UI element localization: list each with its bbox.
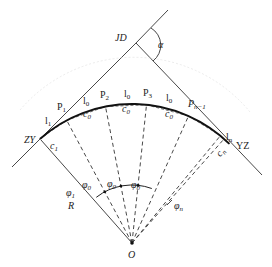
curve-layout-diagram: JD α ZY YZ O R P1 P2 P3 Pn−1 l1 l0 l0 l0…	[0, 0, 272, 267]
radial-dashed-line	[132, 136, 220, 243]
label-phi1: φ1	[66, 187, 75, 200]
angle-arc-point	[120, 185, 123, 188]
label-cn: cn	[213, 145, 228, 160]
radial-dashed-line	[132, 139, 224, 243]
label-phi0-b: φ0	[107, 178, 117, 191]
label-l0-b: l0	[124, 88, 131, 101]
label-p1: P1	[57, 101, 67, 114]
label-phin: φn	[174, 200, 184, 213]
radius-line	[41, 140, 132, 243]
label-l0-c: l0	[166, 92, 173, 105]
label-jd: JD	[115, 32, 127, 43]
label-r: R	[67, 200, 74, 211]
radial-dashed-line	[67, 120, 132, 243]
label-p3: P3	[143, 87, 153, 100]
label-alpha: α	[158, 39, 164, 50]
radial-dashed-line	[106, 107, 133, 243]
label-yz: YZ	[236, 140, 249, 151]
label-phi0-a: φ0	[82, 179, 92, 192]
label-l0-a: l0	[83, 95, 90, 108]
angle-arc-point	[103, 190, 106, 193]
label-pn-1: Pn−1	[187, 98, 206, 111]
label-p2: P2	[100, 89, 110, 102]
label-o: O	[128, 249, 135, 260]
radial-dashed-line	[132, 105, 147, 243]
center-point	[130, 241, 134, 245]
label-phi0-c: φ0	[131, 179, 141, 192]
label-l1: l1	[45, 115, 52, 128]
label-zy: ZY	[24, 134, 37, 145]
radial-dashed-line	[132, 116, 189, 243]
